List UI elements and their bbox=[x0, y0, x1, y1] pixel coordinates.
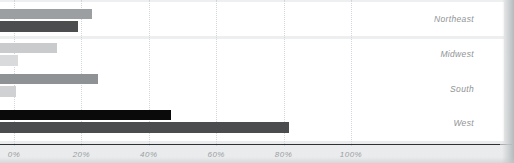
bar-south-series-2 bbox=[0, 86, 16, 97]
x-tick-label-40: 40% bbox=[140, 150, 158, 159]
x-axis-line bbox=[0, 144, 500, 145]
x-axis-line-fade bbox=[498, 144, 512, 145]
x-tick-label-20: 20% bbox=[73, 150, 91, 159]
chart-root: Northeast Midwest South West 0% 20% 40% … bbox=[0, 0, 514, 163]
category-label-south: South bbox=[450, 84, 474, 94]
gridline-100 bbox=[351, 0, 352, 146]
x-tick-label-100: 100% bbox=[340, 150, 362, 159]
category-label-west: West bbox=[453, 118, 474, 128]
category-label-northeast: Northeast bbox=[434, 14, 474, 24]
bar-northeast-series-2 bbox=[0, 21, 78, 32]
x-tick-label-80: 80% bbox=[275, 150, 293, 159]
plot-area: Northeast Midwest South West bbox=[0, 0, 514, 146]
x-tick-label-0: 0% bbox=[8, 150, 21, 159]
bar-midwest-series-1 bbox=[0, 43, 57, 53]
bar-northeast-series-1 bbox=[0, 9, 92, 19]
x-tick-label-60: 60% bbox=[207, 150, 225, 159]
category-label-midwest: Midwest bbox=[440, 49, 474, 59]
row-band-midwest bbox=[0, 39, 504, 73]
bar-south-series-1 bbox=[0, 74, 98, 84]
bar-west-series-1 bbox=[0, 110, 171, 120]
bar-west-series-2 bbox=[0, 122, 289, 133]
bar-midwest-series-2 bbox=[0, 55, 18, 66]
